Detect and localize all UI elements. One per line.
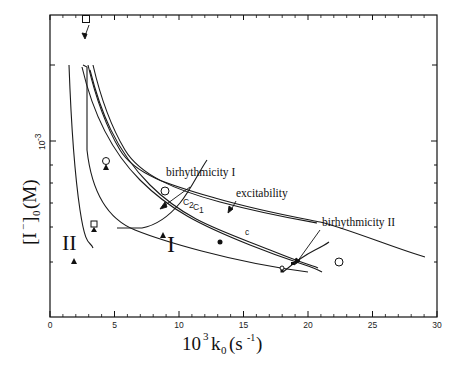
y-label-close: ] [19, 217, 40, 223]
x-tick-20: 20 [303, 320, 313, 330]
filled-triangle-marker [160, 232, 166, 238]
arrow-birhythmicity-i-head [160, 202, 167, 209]
open-square-marker [83, 16, 90, 23]
y-label-bracket: [I [19, 232, 40, 245]
birhythmicity-i-label: birhythmicity I [166, 166, 235, 179]
x-tick-30: 30 [432, 320, 442, 330]
open-circle-marker [161, 187, 169, 195]
x-tick-15: 15 [239, 320, 249, 330]
x-label-close: ) [256, 333, 262, 355]
y-axis-label: [I − ] 0 (M) [17, 179, 42, 245]
x-label-variable: k [211, 333, 221, 354]
x-tick-labels: 0 5 10 15 20 25 30 [48, 320, 442, 330]
y-label-unit: (M) [19, 179, 41, 209]
open-circle-marker [103, 158, 110, 165]
region-ii-label: II [62, 230, 77, 255]
arrow-birhythmicity-ii-line [297, 230, 320, 262]
x-axis-ticks [50, 15, 437, 317]
filled-triangle-marker [91, 227, 97, 232]
region-i-label: I [167, 231, 175, 257]
c1-subscript: 1 [199, 205, 204, 215]
filled-circle-marker [218, 240, 223, 245]
chart: 0 5 10 15 20 25 30 10 3 k 0 (s -1 ) [I −… [0, 0, 461, 371]
x-label-base: 10 [182, 333, 201, 354]
x-label-subscript: 0 [221, 344, 227, 356]
open-square-marker [91, 221, 97, 227]
y-label-subscript: 0 [30, 210, 42, 216]
x-tick-5: 5 [112, 320, 117, 330]
x-axis-minor-ticks [63, 15, 424, 317]
excitability-lower-curve [93, 65, 317, 223]
x-tick-25: 25 [368, 320, 378, 330]
filled-triangle-marker [71, 258, 77, 264]
y-tick-exponent: -3 [33, 133, 43, 141]
x-tick-0: 0 [48, 320, 53, 330]
y-tick-label: 10 -3 [33, 133, 47, 150]
birhythmicity-ii-label: birhythmicity II [322, 216, 395, 229]
x-tick-10: 10 [174, 320, 184, 330]
x-axis-label: 10 3 k 0 (s -1 ) [182, 330, 262, 356]
small-filled-square-marker [281, 270, 284, 273]
y-label-charge: − [17, 224, 29, 230]
open-circle-marker [335, 258, 343, 266]
x-label-unit-exponent: -1 [247, 332, 255, 343]
plot-frame [50, 15, 437, 317]
birhythmicity-ii-curve [283, 242, 329, 272]
x-label-unit: (s [229, 333, 243, 355]
small-open-circle-marker [280, 266, 284, 270]
c-label: c [245, 227, 250, 237]
filled-triangle-marker [103, 164, 109, 170]
excitability-label: excitability [236, 187, 288, 200]
curves [69, 65, 425, 272]
filled-square-marker [291, 262, 294, 265]
arrow-square-head [82, 33, 87, 39]
x-label-exponent: 3 [203, 330, 209, 342]
